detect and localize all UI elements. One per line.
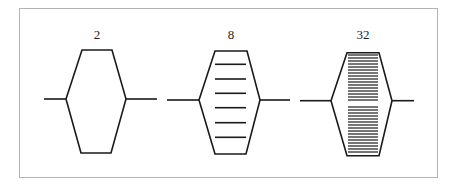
diagram-canvas: 2 8 (0, 0, 462, 185)
hexagon-outline (66, 50, 126, 153)
inner-lines (215, 64, 246, 137)
hexagon-8 (167, 51, 290, 154)
label-2: 2 (94, 27, 101, 42)
hexagon-outline (199, 51, 260, 154)
hexagon-2 (44, 50, 157, 153)
inner-lines (348, 55, 378, 152)
label-8: 8 (228, 27, 235, 42)
label-32: 32 (357, 27, 370, 42)
hexagon-32 (300, 53, 414, 156)
